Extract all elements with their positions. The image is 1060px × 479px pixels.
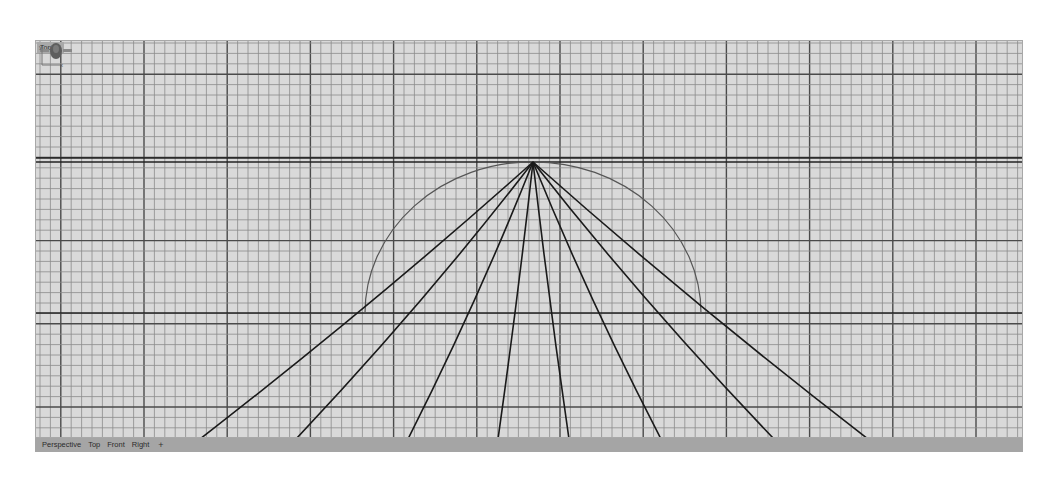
svg-text:x: x	[60, 62, 63, 68]
viewport-canvas[interactable]	[36, 41, 1023, 438]
viewport-tab-bar: Perspective Top Front Right +	[35, 438, 1023, 452]
semicircle-arc	[365, 162, 701, 313]
top-viewport[interactable]: Top y x	[35, 40, 1023, 438]
world-axis-icon: y x	[36, 41, 66, 71]
tab-perspective[interactable]: Perspective	[40, 438, 86, 452]
tab-top[interactable]: Top	[86, 438, 105, 452]
tab-right[interactable]: Right	[130, 438, 155, 452]
svg-text:y: y	[39, 44, 42, 50]
add-viewport-tab-button[interactable]: +	[154, 438, 167, 452]
tab-front[interactable]: Front	[105, 438, 130, 452]
